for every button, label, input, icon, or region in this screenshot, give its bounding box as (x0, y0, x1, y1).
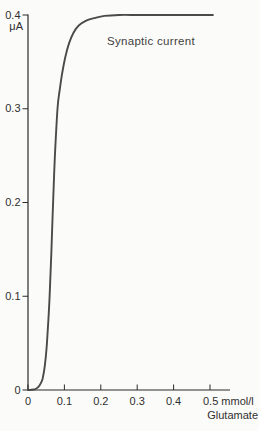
y-tick-label: 0 (14, 384, 20, 396)
x-tick-label: 0 (25, 395, 31, 407)
y-tick-label: 0.4 (5, 9, 20, 21)
x-tick-label: 0.1 (57, 395, 72, 407)
x-tick-label: 0.4 (166, 395, 181, 407)
dose-response-figure: 00.10.20.30.4 00.10.20.30.40.5 mmol/l Sy… (0, 0, 259, 431)
x-tick-label: 0.5 mmol/l (203, 395, 254, 407)
synaptic-current-chart: 00.10.20.30.4 00.10.20.30.40.5 mmol/l Sy… (0, 0, 259, 431)
curve-annotation: Synaptic current (107, 35, 195, 47)
x-axis-substance-label: Glutamate (207, 409, 258, 421)
y-axis-ticks: 00.10.20.30.4 (5, 9, 28, 396)
x-tick-label: 0.3 (130, 395, 145, 407)
y-tick-label: 0.2 (5, 196, 20, 208)
x-tick-label: 0.2 (93, 395, 108, 407)
y-tick-label: 0.1 (5, 290, 20, 302)
y-tick-label: 0.3 (5, 102, 20, 114)
y-axis-unit-label: μA (9, 20, 23, 32)
synaptic-current-curve (28, 15, 213, 390)
x-axis-ticks: 00.10.20.30.40.5 mmol/l (25, 385, 254, 408)
